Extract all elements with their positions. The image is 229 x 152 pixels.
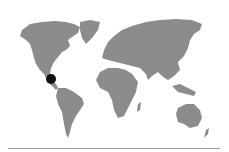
islands-southeast-asia [172, 84, 196, 96]
island-new-zealand [204, 128, 209, 138]
continent-australia [176, 104, 202, 128]
world-map-svg [0, 0, 229, 152]
location-marker[interactable] [46, 74, 56, 84]
world-map [0, 0, 229, 152]
continent-africa [96, 68, 138, 118]
divider-line [8, 148, 220, 149]
continent-north-america [20, 21, 80, 78]
continent-greenland [80, 20, 100, 44]
continent-south-america [56, 88, 84, 138]
island-madagascar [137, 102, 141, 112]
